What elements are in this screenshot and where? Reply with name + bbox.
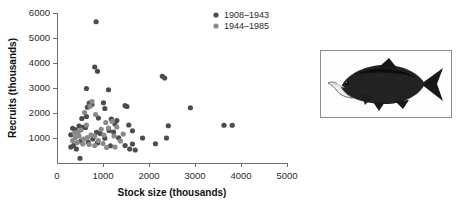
legend-swatch [213,12,218,17]
data-point [110,119,115,124]
data-point [140,135,145,140]
data-point [100,141,105,146]
data-point [102,106,107,111]
data-point [106,125,111,130]
data-point [118,138,123,143]
data-point [124,104,129,109]
y-tick-label: 1000 [29,132,50,143]
y-tick-label: 3000 [29,82,50,93]
x-tick-label: 2000 [138,170,159,181]
data-point [79,116,84,121]
x-tick-label: 4000 [230,170,251,181]
data-point [104,145,109,150]
series-1 [68,19,235,161]
data-point [94,19,99,24]
data-point [84,86,89,91]
data-point [121,131,126,136]
y-tick-label: 4000 [29,57,50,68]
x-tick-label: 0 [54,170,59,181]
data-point [230,123,235,128]
data-point [133,147,138,152]
data-point [95,69,100,74]
data-point [87,142,92,147]
data-point [130,128,135,133]
salmon-photo-frame [320,50,452,118]
data-point [96,138,101,143]
x-tick-label: 3000 [184,170,205,181]
y-axis-title: Recruits (thousands) [7,38,18,138]
scatter-chart-panel: 1000200030004000500060000100020003000400… [0,0,300,209]
data-point [112,144,117,149]
data-point [111,133,116,138]
data-point [92,64,97,69]
data-point [122,143,127,148]
data-point [126,122,131,127]
figure-container: 1000200030004000500060000100020003000400… [0,0,463,209]
y-tick-label: 6000 [29,7,50,18]
data-point [221,123,226,128]
legend-label: 1908–1943 [224,10,269,20]
data-point [101,100,106,105]
data-point [92,143,97,148]
data-point [127,146,132,151]
data-point [153,141,158,146]
data-point [166,123,171,128]
data-point [101,132,106,137]
data-point [84,122,89,127]
data-point [89,99,94,104]
data-point [164,135,169,140]
x-tick-label: 5000 [276,170,297,181]
data-point [81,136,86,141]
sockeye-salmon-illustration [321,51,451,117]
data-point [80,141,85,146]
data-point [93,112,98,117]
chart-legend: 1908–19431944–1985 [213,10,269,31]
data-point [106,87,111,92]
data-point [82,110,87,115]
data-point [114,124,119,129]
x-axis-title: Stock size (thousands) [118,187,227,198]
data-point [75,140,80,145]
data-point [77,156,82,161]
legend-swatch [213,23,218,28]
axes-group: 1000200030004000500060000100020003000400… [29,7,298,181]
data-point [130,141,135,146]
data-point [88,104,93,109]
y-tick-label: 2000 [29,107,50,118]
data-point [68,144,73,149]
data-point [162,75,167,80]
y-tick-label: 5000 [29,32,50,43]
salmon-photo [321,51,451,117]
x-tick-label: 1000 [92,170,113,181]
data-point [92,133,97,138]
data-point [74,146,79,151]
legend-label: 1944–1985 [224,21,269,31]
scatter-plot-svg: 1000200030004000500060000100020003000400… [0,0,300,209]
data-points-group [68,19,235,161]
data-point [103,120,108,125]
data-point [72,130,77,135]
data-point [99,127,104,132]
data-point [188,105,193,110]
data-point [76,133,81,138]
